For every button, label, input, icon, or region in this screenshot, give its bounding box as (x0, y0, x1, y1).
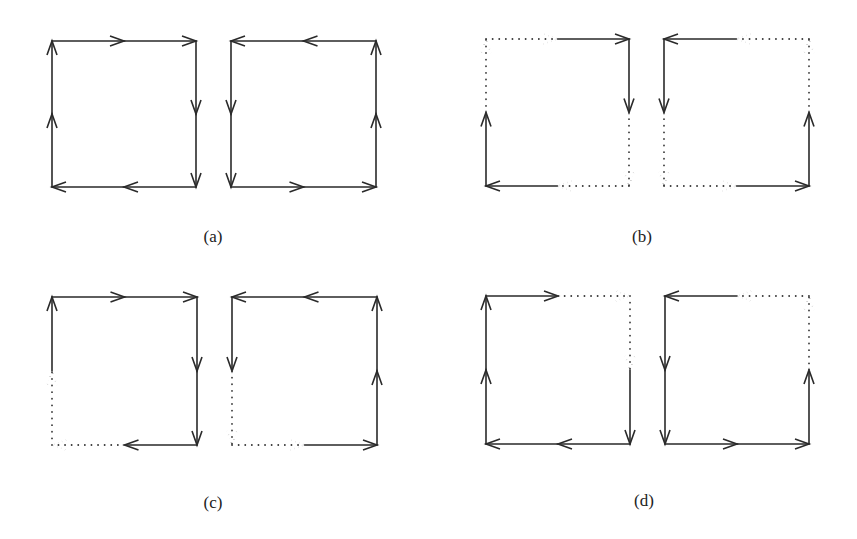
left-square (481, 34, 634, 191)
panel-c (47, 292, 382, 450)
left-square (47, 292, 202, 450)
panel-label-b: (b) (632, 227, 652, 247)
panel-label-d: (d) (634, 491, 654, 511)
right-square (660, 291, 814, 449)
panel-label-c: (c) (204, 493, 223, 513)
panel-b (481, 34, 814, 191)
figure-canvas (0, 0, 857, 539)
right-square (227, 292, 382, 450)
panel-d (481, 291, 814, 449)
panel-label-a: (a) (204, 227, 223, 247)
right-square (226, 36, 381, 192)
panel-a (47, 36, 381, 192)
right-square (659, 34, 814, 191)
left-square (47, 36, 201, 192)
left-square (481, 291, 635, 449)
